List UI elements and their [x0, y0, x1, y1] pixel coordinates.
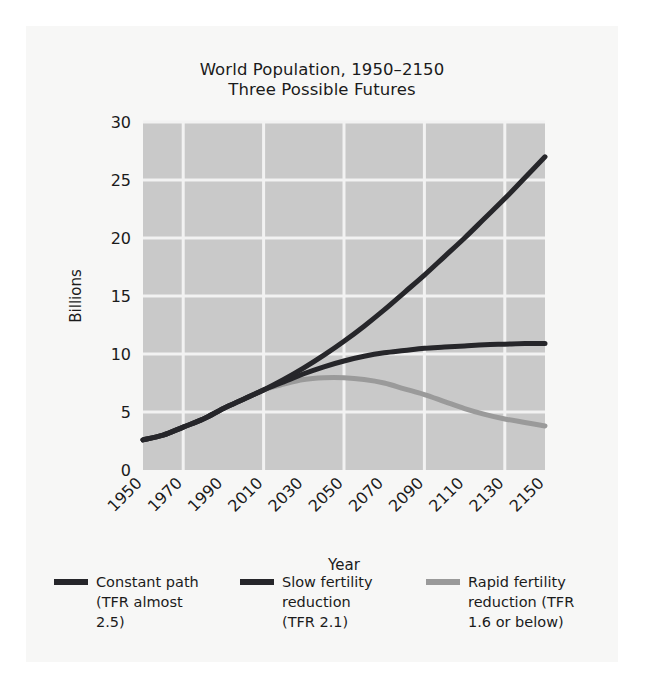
y-axis-tick-label: 15	[111, 287, 131, 306]
legend-item[interactable]: Rapid fertility reduction (TFR 1.6 or be…	[426, 572, 612, 632]
legend-line-1: Slow fertility	[282, 574, 373, 590]
chart-plot: 0510152025301950197019902010203020502070…	[26, 26, 618, 546]
legend-line-1: Rapid fertility	[468, 574, 566, 590]
y-axis-tick-label: 20	[111, 229, 131, 248]
legend-swatch-slow-fertility	[240, 579, 274, 585]
y-axis-tick-label: 25	[111, 171, 131, 190]
legend-line-3: (TFR 2.1)	[282, 614, 348, 630]
chart-figure: World Population, 1950–2150 Three Possib…	[26, 26, 618, 662]
x-axis-tick-label: 2110	[425, 473, 467, 515]
x-axis-tick-label: 1950	[104, 473, 146, 515]
legend-label-constant-path: Constant path (TFR almost 2.5)	[96, 572, 199, 632]
legend-swatch-constant-path	[54, 579, 88, 585]
x-axis-tick-label: 2030	[264, 473, 306, 515]
legend-item[interactable]: Constant path (TFR almost 2.5)	[54, 572, 240, 632]
chart-page: World Population, 1950–2150 Three Possib…	[0, 0, 646, 681]
legend-label-slow-fertility: Slow fertility reduction (TFR 2.1)	[282, 572, 373, 632]
y-axis-title: Billions	[67, 269, 85, 323]
legend-swatch-rapid-fertility	[426, 579, 460, 585]
x-axis-tick-label: 2010	[224, 473, 266, 515]
legend-line-2: reduction (TFR	[468, 594, 574, 610]
legend-line-2: reduction	[282, 594, 351, 610]
x-axis-tick-label: 2150	[506, 473, 548, 515]
x-axis-tick-label: 2130	[465, 473, 507, 515]
x-axis-tick-label: 1990	[184, 473, 226, 515]
x-axis-tick-label: 2070	[345, 473, 387, 515]
legend-line-1: Constant path	[96, 574, 199, 590]
y-axis-tick-label: 10	[111, 345, 131, 364]
legend-line-3: 1.6 or below)	[468, 614, 564, 630]
legend-line-2: (TFR almost	[96, 594, 183, 610]
chart-legend: Constant path (TFR almost 2.5) Slow fert…	[54, 572, 614, 632]
x-axis-tick-label: 1970	[144, 473, 186, 515]
legend-label-rapid-fertility: Rapid fertility reduction (TFR 1.6 or be…	[468, 572, 574, 632]
legend-item[interactable]: Slow fertility reduction (TFR 2.1)	[240, 572, 426, 632]
legend-line-3: 2.5)	[96, 614, 125, 630]
y-axis-tick-label: 30	[111, 113, 131, 132]
x-axis-tick-label: 2050	[305, 473, 347, 515]
x-axis-tick-label: 2090	[385, 473, 427, 515]
y-axis-tick-label: 5	[121, 403, 131, 422]
